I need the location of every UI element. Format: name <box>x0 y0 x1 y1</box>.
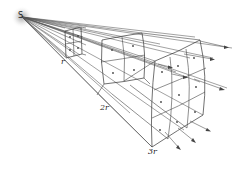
surface-2r <box>97 33 150 95</box>
distance-label-r: r <box>61 58 65 66</box>
inverse-square-diagram <box>0 0 243 171</box>
source-label: S <box>18 12 23 20</box>
distance-label-3r: 3r <box>148 148 157 156</box>
distance-label-2r: 2r <box>100 104 109 112</box>
rays <box>22 17 232 147</box>
